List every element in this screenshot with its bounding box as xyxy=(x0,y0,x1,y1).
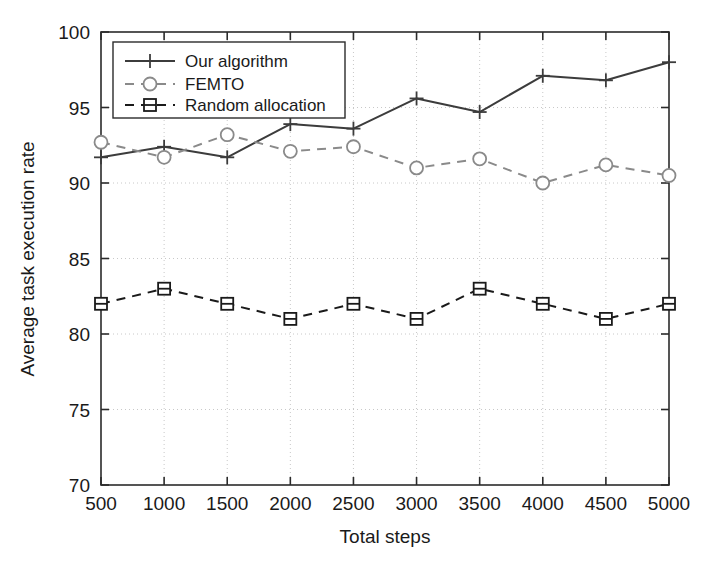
y-tick-label: 85 xyxy=(69,249,90,270)
marker-circle xyxy=(284,145,297,158)
marker-square xyxy=(284,313,296,325)
x-tick-label: 2500 xyxy=(332,493,374,514)
x-tick-label: 1000 xyxy=(143,493,185,514)
y-tick-label: 95 xyxy=(69,98,90,119)
chart-figure: 500100015002000250030003500400045005000 … xyxy=(0,0,717,568)
x-tick-label: 500 xyxy=(85,493,117,514)
marker-circle xyxy=(410,161,423,174)
y-tick-label: 70 xyxy=(69,475,90,496)
marker-square xyxy=(221,298,233,310)
marker-circle xyxy=(599,158,612,171)
x-tick-label: 2000 xyxy=(269,493,311,514)
marker-square xyxy=(537,298,549,310)
marker-square xyxy=(663,298,675,310)
x-tick-label: 4500 xyxy=(585,493,627,514)
marker-square xyxy=(144,99,156,111)
x-tick-label: 3000 xyxy=(395,493,437,514)
marker-circle xyxy=(95,136,108,149)
marker-square xyxy=(95,298,107,310)
marker-circle xyxy=(663,169,676,182)
marker-square xyxy=(600,313,612,325)
marker-circle xyxy=(158,151,171,164)
y-tick-label: 75 xyxy=(69,400,90,421)
x-tick-label: 1500 xyxy=(206,493,248,514)
marker-square xyxy=(411,313,423,325)
y-tick-label: 100 xyxy=(58,22,90,43)
marker-circle xyxy=(221,128,234,141)
legend-label: Random allocation xyxy=(185,96,326,115)
x-axis-title: Total steps xyxy=(340,526,431,547)
y-tick-label: 90 xyxy=(69,173,90,194)
marker-square xyxy=(347,298,359,310)
marker-square xyxy=(158,283,170,295)
y-tick-label: 80 xyxy=(69,324,90,345)
x-tick-label: 5000 xyxy=(648,493,690,514)
legend-label: Our algorithm xyxy=(185,52,288,71)
marker-circle xyxy=(347,140,360,153)
marker-circle xyxy=(473,152,486,165)
marker-circle xyxy=(144,78,157,91)
chart-background xyxy=(0,0,717,568)
marker-circle xyxy=(536,177,549,190)
marker-square xyxy=(474,283,486,295)
line-chart-canvas: 500100015002000250030003500400045005000 … xyxy=(0,0,717,568)
chart-legend: Our algorithmFEMTORandom allocation xyxy=(113,42,345,118)
x-tick-label: 4000 xyxy=(522,493,564,514)
x-tick-label: 3500 xyxy=(459,493,501,514)
y-axis-title: Average task execution rate xyxy=(17,141,38,376)
legend-label: FEMTO xyxy=(185,75,244,94)
